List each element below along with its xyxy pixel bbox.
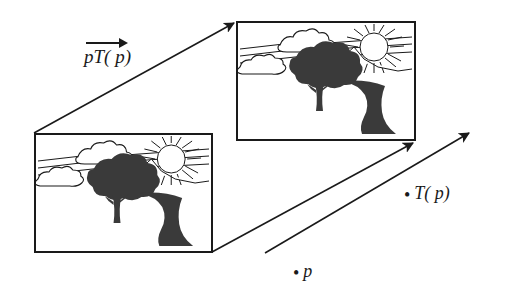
p-label-text: p xyxy=(303,261,312,281)
landscape-scene-transformed xyxy=(238,23,414,139)
transformed-image-frame xyxy=(236,21,416,141)
point-bullet-icon: • xyxy=(293,263,303,283)
pT(p)-vector-label: pT( p) xyxy=(84,36,131,66)
p-point-label: •p xyxy=(293,262,312,282)
source-image-frame xyxy=(34,133,213,253)
figure-canvas: pT( p) •T( p) •p xyxy=(0,0,509,302)
pT(p)-label-text: pT( p) xyxy=(84,47,131,66)
frame-corner-arrow-top-left xyxy=(34,23,234,133)
vector-overhead-arrow-icon xyxy=(86,36,128,47)
frame-corner-arrow-bottom-right xyxy=(212,143,413,252)
landscape-scene-source xyxy=(36,135,211,251)
point-bullet-icon: • xyxy=(404,185,414,205)
T(p)-label-text: T( p) xyxy=(414,183,450,203)
T(p)-point-label: •T( p) xyxy=(404,184,450,204)
